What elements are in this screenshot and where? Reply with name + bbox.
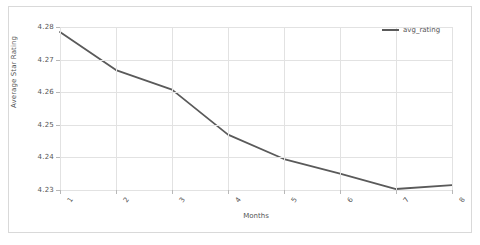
gridline-horizontal: [60, 60, 452, 61]
gridline-vertical: [284, 27, 285, 190]
data-line-series: [60, 27, 452, 190]
chart-legend: avg_rating: [382, 26, 440, 34]
x-tick-mark: [452, 190, 453, 194]
gridline-horizontal: [60, 190, 452, 191]
y-tick-label: 4.25: [38, 121, 54, 129]
x-axis-title: Months: [60, 212, 452, 220]
gridline-vertical: [452, 27, 453, 190]
x-tick-mark: [116, 190, 117, 194]
y-axis-title: Average Star Rating: [10, 36, 18, 108]
y-tick-label: 4.27: [38, 56, 54, 64]
gridline-vertical: [396, 27, 397, 190]
y-tick-label: 4.24: [38, 153, 54, 161]
y-tick-label: 4.23: [38, 186, 54, 194]
legend-line-swatch: [382, 29, 399, 31]
x-tick-mark: [396, 190, 397, 194]
gridline-horizontal: [60, 157, 452, 158]
gridline-vertical: [172, 27, 173, 190]
x-tick-mark: [60, 190, 61, 194]
series-avg-rating-line: [60, 32, 452, 189]
x-tick-mark: [172, 190, 173, 194]
gridline-horizontal: [60, 92, 452, 93]
x-tick-mark: [284, 190, 285, 194]
x-tick-mark: [340, 190, 341, 194]
chart-figure: Average Star Rating 4.284.274.264.254.24…: [0, 0, 480, 245]
gridline-vertical: [340, 27, 341, 190]
y-axis-tick-labels: 4.284.274.264.254.244.23: [20, 27, 54, 190]
x-tick-mark: [228, 190, 229, 194]
gridline-vertical: [60, 27, 61, 190]
plot-area: [60, 27, 452, 190]
y-tick-label: 4.28: [38, 23, 54, 31]
y-tick-label: 4.26: [38, 88, 54, 96]
gridline-vertical: [228, 27, 229, 190]
legend-label-avg-rating: avg_rating: [403, 26, 440, 34]
gridline-vertical: [116, 27, 117, 190]
gridline-horizontal: [60, 125, 452, 126]
